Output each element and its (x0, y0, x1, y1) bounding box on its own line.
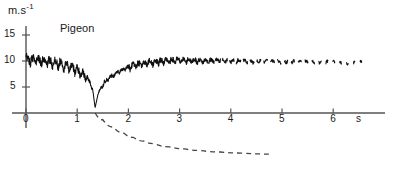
x-tick-label: 6 (330, 113, 336, 124)
plot-area (0, 0, 393, 182)
x-tick-label: 0 (23, 113, 29, 124)
x-tick-label: 5 (279, 113, 285, 124)
x-axis-unit-label: s (356, 113, 361, 124)
y-tick-label: 10 (4, 54, 15, 65)
x-tick-label: 2 (125, 113, 131, 124)
flight-speed-trace (26, 53, 362, 107)
pigeon-flight-speed-figure: m.s-1 Pigeon 0123456 51015 s (0, 0, 393, 182)
axes (12, 26, 385, 128)
x-tick-label: 4 (228, 113, 234, 124)
x-tick-label: 1 (74, 113, 80, 124)
reference-decay-curve (95, 113, 272, 154)
y-tick-label: 15 (4, 28, 15, 39)
y-tick-label: 5 (10, 80, 16, 91)
x-tick-label: 3 (177, 113, 183, 124)
